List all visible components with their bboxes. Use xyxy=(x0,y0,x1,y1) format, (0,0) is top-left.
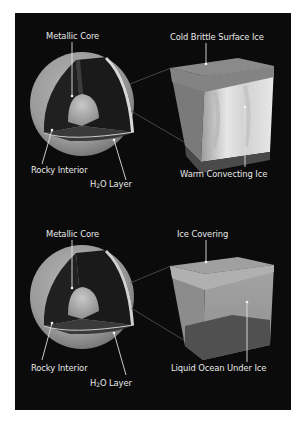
pointer-dot xyxy=(205,261,208,264)
sphere-cutaway-bottom xyxy=(30,245,134,349)
label-ice-covering: Ice Covering xyxy=(177,230,228,238)
pointer-dot xyxy=(244,106,247,109)
pointer-dot xyxy=(246,301,249,304)
label-rocky-interior-top: Rocky Interior xyxy=(31,166,88,174)
pointer-dot xyxy=(71,95,74,98)
label-warm-convecting-ice: Warm Convecting Ice xyxy=(180,170,267,178)
label-metallic-core-bottom: Metallic Core xyxy=(46,230,99,238)
label-cold-brittle-surface-ice: Cold Brittle Surface Ice xyxy=(170,33,264,41)
label-h2o-layer-bottom: H2O Layer xyxy=(90,379,132,388)
sphere-cutaway-top xyxy=(30,52,134,156)
ice-block-bottom xyxy=(170,257,274,360)
pointer-dot xyxy=(113,139,116,142)
label-h2o-layer-top: H2O Layer xyxy=(90,180,132,189)
h2o-suffix: O Layer xyxy=(100,179,132,189)
pointer-dot xyxy=(113,332,116,335)
label-rocky-interior-bottom: Rocky Interior xyxy=(31,364,88,372)
pointer-dot xyxy=(71,287,74,290)
ice-block-top xyxy=(170,58,274,173)
pointer-dot xyxy=(205,63,208,66)
diagram-artwork xyxy=(0,0,302,422)
pointer-dot xyxy=(51,129,54,132)
label-liquid-ocean-under-ice: Liquid Ocean Under Ice xyxy=(171,364,266,372)
h2o-suffix: O Layer xyxy=(100,378,132,388)
pointer-dot xyxy=(51,322,54,325)
label-metallic-core-top: Metallic Core xyxy=(46,32,99,40)
